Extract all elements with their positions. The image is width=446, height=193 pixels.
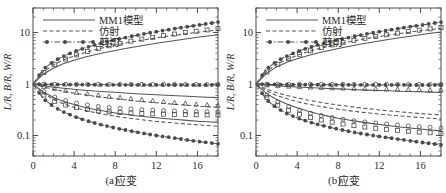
marker-open-triangle — [406, 87, 410, 91]
marker-filled-circle — [130, 129, 134, 133]
marker-filled-circle — [216, 142, 220, 146]
marker-filled-circle — [334, 83, 338, 87]
marker-filled-circle — [390, 136, 394, 140]
marker-filled-circle — [279, 57, 283, 61]
marker-filled-circle — [124, 83, 128, 87]
marker-open-square — [330, 120, 334, 124]
marker-open-triangle — [183, 101, 187, 105]
marker-filled-circle — [359, 132, 363, 136]
legend-label: 剪切 — [322, 36, 342, 48]
marker-filled-circle — [377, 135, 381, 139]
marker-filled-circle — [371, 134, 375, 138]
marker-filled-circle — [204, 140, 208, 144]
y-tick-label: 1 — [248, 79, 253, 90]
marker-filled-circle — [291, 83, 295, 87]
marker-filled-circle — [43, 66, 47, 70]
marker-filled-circle — [310, 45, 314, 49]
marker-filled-circle — [87, 119, 91, 123]
marker-filled-circle — [303, 119, 307, 123]
marker-filled-circle — [408, 139, 412, 143]
legend-label: MM1模型 — [322, 14, 366, 26]
y-axis-label: L/R, B/R, W/R — [225, 54, 236, 112]
marker-filled-circle — [161, 134, 165, 138]
marker-filled-circle — [37, 73, 41, 77]
marker-filled-circle — [173, 136, 177, 140]
marker-filled-circle — [93, 121, 97, 125]
chart-panel-a: 1010.10481216应变L/R, B/R, W/RMM1模型仿射剪切 (a… — [0, 0, 223, 193]
marker-filled-circle — [111, 126, 115, 130]
legend-sample-marker — [45, 40, 49, 44]
marker-open-square — [395, 128, 399, 132]
marker-open-square — [395, 31, 399, 35]
marker-filled-circle — [216, 20, 220, 24]
series-line — [256, 84, 441, 115]
marker-open-triangle — [172, 100, 176, 104]
marker-open-circle — [118, 106, 122, 110]
legend-sample-marker — [286, 40, 290, 44]
marker-filled-circle — [185, 138, 189, 142]
marker-filled-circle — [359, 33, 363, 37]
marker-filled-circle — [204, 22, 208, 26]
marker-filled-circle — [56, 57, 60, 61]
chart-panel-b: 1010.10481216应变L/R, B/R, W/RMM1模型仿射剪切 (b… — [223, 0, 446, 193]
marker-filled-circle — [347, 36, 351, 40]
marker-filled-circle — [37, 91, 41, 95]
marker-filled-circle — [291, 52, 295, 56]
x-tick-label: 4 — [294, 160, 300, 171]
legend-sample-marker — [314, 40, 318, 44]
marker-filled-circle — [353, 34, 357, 38]
marker-filled-circle — [167, 135, 171, 139]
marker-filled-circle — [136, 130, 140, 134]
legend-sample-marker — [91, 40, 95, 44]
marker-filled-circle — [260, 91, 264, 95]
y-tick-label: 0.1 — [240, 130, 253, 141]
marker-open-triangle — [205, 102, 209, 106]
marker-filled-circle — [124, 36, 128, 40]
series-line — [256, 84, 441, 131]
marker-filled-circle — [390, 83, 394, 87]
marker-filled-circle — [328, 125, 332, 129]
x-tick-label: 16 — [415, 160, 426, 171]
marker-filled-circle — [136, 83, 140, 87]
marker-filled-circle — [142, 132, 146, 136]
marker-filled-circle — [99, 123, 103, 127]
marker-filled-circle — [68, 52, 72, 56]
marker-filled-circle — [260, 73, 264, 77]
marker-filled-circle — [303, 47, 307, 51]
marker-filled-circle — [74, 115, 78, 119]
marker-filled-circle — [80, 83, 84, 87]
marker-filled-circle — [80, 117, 84, 121]
marker-filled-circle — [161, 29, 165, 33]
marker-filled-circle — [439, 20, 443, 24]
marker-open-square — [140, 112, 144, 116]
legend-label: 仿射 — [99, 25, 120, 37]
marker-filled-circle — [210, 83, 214, 87]
marker-filled-circle — [414, 140, 418, 144]
x-tick-label: 4 — [71, 160, 77, 171]
marker-filled-circle — [62, 110, 66, 114]
panel-caption-a: (a) — [0, 174, 223, 186]
marker-filled-circle — [111, 83, 115, 87]
marker-open-circle — [107, 105, 111, 109]
marker-open-square — [308, 115, 312, 119]
marker-open-circle — [75, 101, 79, 105]
marker-open-square — [363, 125, 367, 129]
marker-open-circle — [140, 108, 144, 112]
marker-filled-circle — [198, 23, 202, 27]
marker-filled-circle — [148, 133, 152, 137]
legend-sample-marker — [304, 40, 308, 44]
marker-filled-circle — [68, 83, 72, 87]
marker-open-circle — [85, 103, 89, 107]
marker-open-triangle — [74, 90, 78, 94]
legend-sample-marker — [63, 40, 67, 44]
marker-open-circle — [406, 124, 410, 128]
marker-filled-circle — [198, 140, 202, 144]
marker-open-square — [417, 28, 421, 32]
marker-filled-circle — [124, 128, 128, 132]
marker-open-square — [428, 131, 432, 135]
marker-open-triangle — [161, 99, 165, 103]
marker-filled-circle — [433, 83, 437, 87]
marker-filled-circle — [68, 113, 72, 117]
legend-label: 剪切 — [99, 36, 119, 48]
marker-filled-circle — [359, 83, 363, 87]
